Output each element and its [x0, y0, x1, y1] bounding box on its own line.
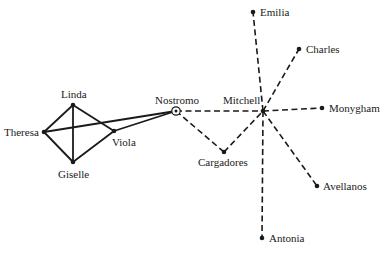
edge-mitchell-avellanos: [263, 111, 317, 186]
node-cargadores: [222, 150, 227, 155]
node-dot-icon: [320, 106, 325, 111]
node-giselle: [71, 160, 76, 165]
edge-cargadores-mitchell: [224, 111, 263, 152]
node-dot-icon: [260, 236, 265, 241]
node-emilia: [251, 10, 256, 15]
edge-theresa-giselle: [44, 132, 73, 162]
node-label-giselle: Giselle: [58, 168, 89, 180]
node-theresa: [42, 130, 47, 135]
node-label-monygham: Monygham: [329, 102, 380, 114]
node-label-antonia: Antonia: [269, 232, 305, 244]
node-monygham: [320, 106, 325, 111]
edge-mitchell-charles: [263, 49, 299, 111]
node-mitchell: [261, 109, 266, 114]
edge-nostromo-cargadores: [176, 111, 224, 152]
node-dot-icon: [315, 184, 320, 189]
node-label-cargadores: Cargadores: [198, 156, 248, 168]
network-diagram: LindaTheresaGiselleViolaNostromoMitchell…: [0, 0, 389, 256]
node-dot-icon: [71, 160, 76, 165]
node-dot-icon: [112, 129, 117, 134]
node-label-viola: Viola: [112, 136, 136, 148]
node-linda: [71, 103, 76, 108]
node-nostromo: [172, 107, 180, 115]
node-label-emilia: Emilia: [260, 6, 289, 18]
node-label-avellanos: Avellanos: [323, 180, 367, 192]
node-dot-icon: [261, 109, 266, 114]
edges-layer: [44, 12, 322, 238]
node-label-nostromo: Nostromo: [155, 94, 200, 106]
edge-viola-nostromo: [114, 111, 176, 131]
node-dot-icon: [175, 110, 178, 113]
node-label-charles: Charles: [306, 43, 340, 55]
node-avellanos: [315, 184, 320, 189]
node-dot-icon: [71, 103, 76, 108]
node-dot-icon: [42, 130, 47, 135]
node-dot-icon: [297, 47, 302, 52]
edge-mitchell-antonia: [262, 111, 263, 238]
node-dot-icon: [251, 10, 256, 15]
edge-mitchell-monygham: [263, 108, 322, 111]
node-charles: [297, 47, 302, 52]
node-label-linda: Linda: [61, 88, 87, 100]
node-label-theresa: Theresa: [4, 126, 39, 138]
node-dot-icon: [222, 150, 227, 155]
node-label-mitchell: Mitchell: [223, 94, 260, 106]
edge-giselle-viola: [73, 131, 114, 162]
node-viola: [112, 129, 117, 134]
node-antonia: [260, 236, 265, 241]
